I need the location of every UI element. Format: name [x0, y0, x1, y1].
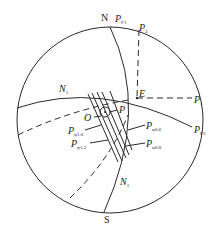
leader-phi08 [126, 143, 145, 146]
label-p3: P3 [139, 23, 148, 37]
label-p-phi06: Pφ0.6 [146, 121, 161, 135]
label-pf3: PF3 [194, 125, 205, 139]
label-n1-upper: N1 [59, 84, 68, 98]
label-p-phi08: Pφ0.8 [146, 139, 161, 153]
label-pf1: PF1 [115, 14, 126, 28]
label-south: S [104, 215, 110, 225]
label-p: P [119, 105, 125, 115]
label-north: N [101, 13, 108, 23]
leader-p [110, 110, 117, 112]
label-p-phi12: Pφ1.2 [71, 139, 86, 153]
label-e: E [139, 89, 145, 99]
leader-o [94, 116, 101, 117]
point-e [136, 97, 138, 99]
leader-phi10 [85, 125, 101, 130]
label-origin: O [84, 113, 91, 123]
label-p1: P1 [194, 95, 203, 109]
primitive-circle [17, 27, 203, 213]
leader-phi12 [90, 140, 108, 143]
leader-phi06 [128, 125, 145, 130]
label-n1-lower: N1 [120, 177, 129, 191]
point-o [104, 111, 106, 113]
stereonet-diagram [0, 0, 220, 230]
